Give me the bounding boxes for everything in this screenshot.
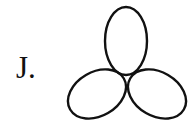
ellipse-bottom-right (119, 59, 188, 128)
trefoil-figure (0, 0, 188, 129)
ellipse-top (105, 7, 147, 75)
ellipse-bottom-left (59, 59, 135, 128)
